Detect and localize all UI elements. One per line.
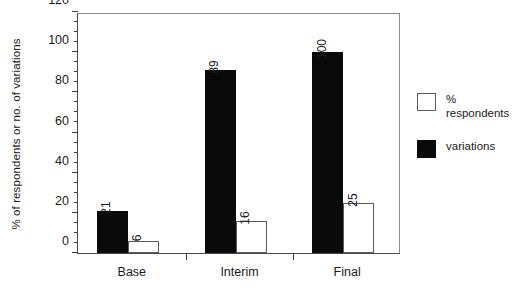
legend-item: variations	[417, 139, 517, 158]
y-axis-minor-tick	[74, 202, 78, 203]
y-axis-minor-tick	[74, 21, 78, 22]
y-axis-minor-tick	[74, 222, 78, 223]
plot-area: 020406080100120216Base8916Interim10025Fi…	[77, 13, 400, 254]
y-axis-minor-tick	[74, 71, 78, 72]
y-axis-minor-tick	[74, 152, 78, 153]
y-axis-minor-tick	[74, 232, 78, 233]
y-axis-tick-label: 100	[48, 34, 69, 47]
y-axis-minor-tick	[74, 61, 78, 62]
y-axis-tick-label: 40	[55, 154, 69, 167]
y-axis-minor-tick	[74, 101, 78, 102]
legend-label: % respondents	[446, 92, 517, 121]
y-axis-minor-tick	[74, 242, 78, 243]
y-axis-minor-tick	[74, 142, 78, 143]
y-axis-minor-tick	[74, 41, 78, 42]
y-axis-tick-label: 80	[55, 74, 69, 87]
bar-value-label: 89	[208, 61, 220, 74]
y-axis-major-tick	[72, 11, 78, 12]
y-axis-minor-tick	[74, 31, 78, 32]
legend-swatch-open	[417, 93, 436, 111]
y-axis-tick-label: 0	[62, 235, 69, 248]
bar-value-label: 25	[347, 193, 359, 206]
bar-final-respondents: 25	[343, 203, 374, 253]
y-axis-major-tick	[72, 51, 78, 52]
y-axis-major-tick	[72, 252, 78, 253]
y-axis-tick-label: 120	[48, 0, 69, 6]
chart-legend: % respondentsvariations	[417, 92, 517, 176]
y-axis-major-tick	[72, 212, 78, 213]
y-axis-minor-tick	[74, 81, 78, 82]
x-axis-category-label: Final	[334, 265, 361, 279]
bar-interim-respondents: 16	[236, 221, 267, 253]
plot-inner: 020406080100120216Base8916Interim10025Fi…	[78, 14, 399, 253]
y-axis-major-tick	[72, 172, 78, 173]
x-axis-separator-tick	[293, 253, 294, 260]
x-axis-separator-tick	[186, 253, 187, 260]
legend-swatch-filled	[417, 140, 436, 158]
bar-base-respondents: 6	[128, 241, 159, 253]
legend-item: % respondents	[417, 92, 517, 121]
y-axis-minor-tick	[74, 182, 78, 183]
y-axis-minor-tick	[74, 121, 78, 122]
bar-interim-variations: 89	[205, 70, 236, 253]
bar-base-variations: 21	[97, 211, 128, 253]
y-axis-minor-tick	[74, 192, 78, 193]
bar-final-variations: 100	[312, 52, 343, 253]
y-axis-tick-label: 60	[55, 114, 69, 127]
y-axis-major-tick	[72, 132, 78, 133]
bar-value-label: 16	[239, 211, 251, 224]
bar-value-label: 6	[131, 235, 143, 242]
y-axis-minor-tick	[74, 111, 78, 112]
bar-value-label: 21	[100, 201, 112, 214]
bar-value-label: 100	[316, 39, 328, 59]
y-axis-major-tick	[72, 91, 78, 92]
y-axis-minor-tick	[74, 162, 78, 163]
chart-figure: % of respondents or no. of variations 02…	[0, 0, 519, 291]
y-axis-tick-label: 20	[55, 195, 69, 208]
legend-label: variations	[446, 139, 495, 153]
x-axis-category-label: Base	[118, 265, 147, 279]
x-axis-category-label: Interim	[220, 265, 258, 279]
y-axis-title: % of respondents or no. of variations	[10, 14, 22, 254]
